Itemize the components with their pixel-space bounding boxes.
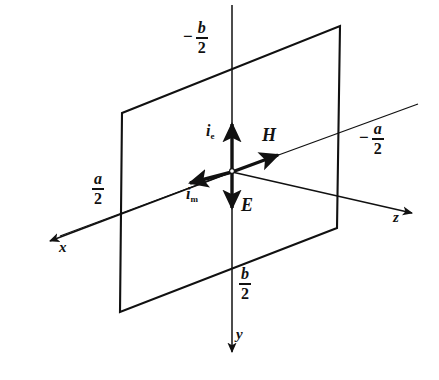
numerator-b-bottom: b <box>239 266 251 283</box>
axis-label-y: y <box>236 327 243 342</box>
label-positive-b-over-2: b 2 <box>239 266 251 302</box>
label-electric-field-E: E <box>241 196 253 214</box>
label-negative-b-over-2: − b 2 <box>183 20 208 56</box>
numerator-b-top: b <box>196 20 208 37</box>
denominator-2-b-bottom: 2 <box>239 285 251 302</box>
origin-point <box>230 169 235 174</box>
oblique-guide-line-lower <box>60 172 232 236</box>
minus-sign-a: − <box>359 129 369 146</box>
axis-label-x: x <box>59 240 67 255</box>
label-magnetic-field-H: H <box>262 126 276 144</box>
label-electric-current-ie: ie <box>206 123 214 139</box>
axis-label-z: z <box>393 210 399 225</box>
denominator-2-a-left: 2 <box>92 190 104 207</box>
z-axis-line <box>232 172 412 213</box>
denominator-2-b-top: 2 <box>196 39 208 56</box>
magnetic-current-vector-line <box>190 172 232 183</box>
figure-root: − b 2 b 2 a 2 − a 2 <box>0 0 439 380</box>
minus-sign-b: − <box>183 28 193 45</box>
denominator-2-a-right: 2 <box>372 140 384 157</box>
label-positive-a-over-2: a 2 <box>92 171 104 207</box>
magnetic-field-vector-line <box>232 155 278 172</box>
label-negative-a-over-2: − a 2 <box>359 121 384 157</box>
diagram-canvas <box>0 0 439 380</box>
numerator-a-right: a <box>372 121 384 138</box>
label-magnetic-current-im: im <box>186 186 198 202</box>
numerator-a-left: a <box>92 171 104 188</box>
ie-subscript: e <box>210 131 214 141</box>
im-subscript: m <box>190 194 198 204</box>
